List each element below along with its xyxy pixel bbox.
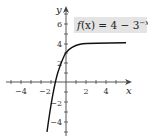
fn-arg: (x) — [81, 19, 95, 31]
y-tick-label: −4 — [50, 118, 62, 127]
function-label: f(x) = 4 − 3−x — [74, 17, 147, 33]
x-tick-label: −2 — [39, 87, 51, 96]
x-axis-label: x — [126, 85, 132, 96]
x-tick-label: 4 — [103, 87, 108, 96]
y-axis-label: y — [55, 4, 62, 15]
x-tick-label: −4 — [15, 87, 27, 96]
y-tick-label: 4 — [57, 40, 62, 49]
fn-exponent: −x — [139, 19, 148, 27]
x-tick-label: 2 — [83, 87, 88, 96]
fn-body: = 4 − 3 — [95, 19, 139, 31]
y-tick-label: 6 — [57, 20, 62, 29]
